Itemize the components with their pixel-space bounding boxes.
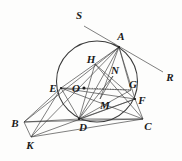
geometry-figure: SARHNEOGFMBDCK bbox=[0, 0, 182, 161]
point-label-n: N bbox=[111, 65, 119, 76]
point-label-r: R bbox=[166, 72, 173, 83]
vertex-dot-f bbox=[134, 98, 136, 100]
point-label-h: H bbox=[87, 54, 96, 65]
geometry-canvas bbox=[0, 0, 182, 161]
circle-center-dot bbox=[82, 86, 85, 89]
point-label-g: G bbox=[129, 79, 137, 90]
circle-layer bbox=[57, 41, 138, 122]
point-label-e: E bbox=[49, 83, 56, 94]
point-label-f: F bbox=[138, 95, 145, 106]
point-label-c: C bbox=[144, 121, 151, 132]
point-label-o: O bbox=[72, 83, 80, 94]
point-label-d: D bbox=[79, 122, 87, 133]
point-label-b: B bbox=[11, 118, 18, 129]
segment-B-K bbox=[24, 122, 31, 137]
circumscribed-circle bbox=[57, 41, 138, 122]
segment-E-K bbox=[31, 88, 61, 137]
point-label-m: M bbox=[100, 100, 110, 111]
vertex-dot-a bbox=[118, 46, 120, 48]
point-label-k: K bbox=[26, 140, 33, 151]
vertex-dot-e bbox=[60, 87, 62, 89]
segments-layer bbox=[24, 26, 163, 137]
point-label-s: S bbox=[76, 10, 82, 21]
point-label-a: A bbox=[117, 31, 124, 42]
